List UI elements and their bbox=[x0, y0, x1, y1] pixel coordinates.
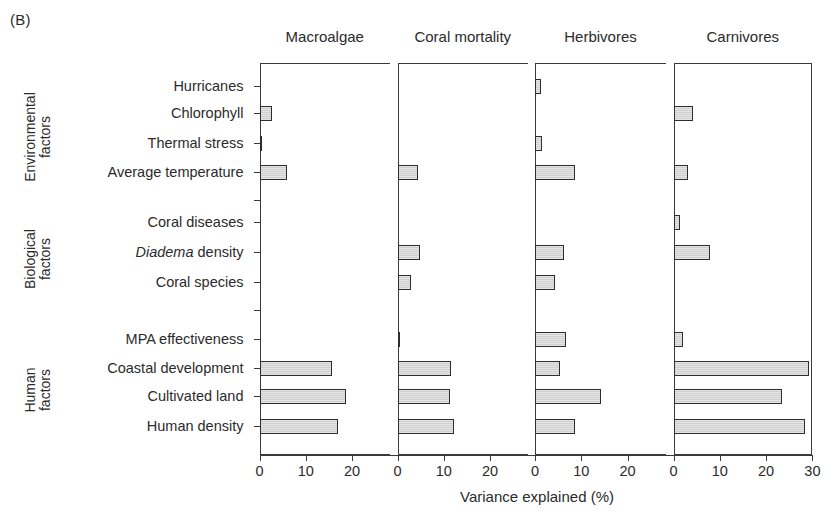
bar bbox=[674, 389, 782, 404]
x-axis-tick-label: 0 bbox=[255, 463, 263, 479]
row-label-coral-species: Coral species bbox=[2, 274, 252, 290]
bar bbox=[260, 419, 339, 434]
row-label-cultivated-land: Cultivated land bbox=[2, 388, 252, 404]
bar bbox=[535, 332, 566, 347]
row-label-italic-part: Diadema bbox=[135, 244, 193, 260]
bar bbox=[398, 275, 411, 290]
row-label-text-part: Average temperature bbox=[108, 164, 244, 180]
x-axis-tick bbox=[398, 455, 399, 461]
y-axis-tick bbox=[254, 252, 260, 253]
x-axis-tick-label: 10 bbox=[436, 463, 452, 479]
row-label-text-part: MPA effectiveness bbox=[126, 331, 244, 347]
row-label-hurricanes: Hurricanes bbox=[2, 78, 252, 94]
row-label-text-part: Human density bbox=[147, 418, 244, 434]
row-label-text-part: Cultivated land bbox=[148, 388, 244, 404]
row-label-text-part: Coral diseases bbox=[148, 214, 244, 230]
x-axis-tick bbox=[581, 455, 582, 461]
x-axis-tick bbox=[674, 455, 675, 461]
x-axis-tick bbox=[490, 455, 491, 461]
x-axis-tick-label: 20 bbox=[482, 463, 498, 479]
x-axis-tick bbox=[720, 455, 721, 461]
panel-title-macroalgae: Macroalgae bbox=[286, 28, 364, 45]
x-axis-tick bbox=[766, 455, 767, 461]
x-axis-tick-label: 10 bbox=[298, 463, 314, 479]
row-label-human-density: Human density bbox=[2, 418, 252, 434]
bar bbox=[398, 332, 401, 347]
x-axis-tick-label: 20 bbox=[758, 463, 774, 479]
y-axis-tick bbox=[254, 310, 260, 311]
x-axis-tick bbox=[812, 455, 813, 461]
row-label-text-part: Chlorophyll bbox=[171, 105, 244, 121]
bar bbox=[260, 361, 333, 376]
panel-title-coral-mortality: Coral mortality bbox=[414, 28, 511, 45]
bar bbox=[398, 389, 450, 404]
x-axis-tick-label: 10 bbox=[573, 463, 589, 479]
bar bbox=[535, 136, 542, 151]
bar bbox=[674, 106, 694, 121]
x-axis-tick bbox=[628, 455, 629, 461]
row-label-coral-diseases: Coral diseases bbox=[2, 214, 252, 230]
bar bbox=[260, 389, 346, 404]
x-axis-tick bbox=[260, 455, 261, 461]
figure-panel-b: (B) EnvironmentalfactorsBiologicalfactor… bbox=[0, 0, 827, 516]
x-axis-tick bbox=[535, 455, 536, 461]
x-axis-title: Variance explained (%) bbox=[460, 488, 614, 505]
x-axis-tick-label: 20 bbox=[344, 463, 360, 479]
row-label-text-part: Hurricanes bbox=[173, 78, 243, 94]
bar bbox=[535, 275, 555, 290]
panel-title-herbivores: Herbivores bbox=[564, 28, 637, 45]
bar bbox=[398, 419, 455, 434]
bar bbox=[260, 106, 273, 121]
bar bbox=[674, 245, 710, 260]
bar bbox=[398, 361, 452, 376]
x-axis-tick bbox=[444, 455, 445, 461]
row-label-text-part: Coral species bbox=[156, 274, 244, 290]
y-axis-tick bbox=[254, 222, 260, 223]
row-label-coastal-development: Coastal development bbox=[2, 360, 252, 376]
bar bbox=[535, 79, 541, 94]
row-label-mpa-effectiveness: MPA effectiveness bbox=[2, 331, 252, 347]
row-label-diadema-density: Diadema density bbox=[2, 244, 252, 260]
bar bbox=[260, 165, 288, 180]
panel-title-carnivores: Carnivores bbox=[706, 28, 779, 45]
row-label-average-temperature: Average temperature bbox=[2, 164, 252, 180]
y-axis-tick bbox=[254, 200, 260, 201]
bar bbox=[674, 361, 810, 376]
y-axis-tick bbox=[254, 86, 260, 87]
row-label-text-part: density bbox=[194, 244, 244, 260]
y-axis-tick bbox=[254, 282, 260, 283]
bar bbox=[674, 332, 683, 347]
bar bbox=[535, 245, 564, 260]
bar bbox=[674, 165, 689, 180]
bar bbox=[674, 215, 681, 230]
bar bbox=[674, 419, 805, 434]
panel-letter-label: (B) bbox=[10, 11, 31, 28]
x-axis-tick bbox=[306, 455, 307, 461]
bar bbox=[398, 245, 420, 260]
row-label-thermal-stress: Thermal stress bbox=[2, 135, 252, 151]
x-axis-tick-label: 0 bbox=[669, 463, 677, 479]
bar bbox=[535, 419, 575, 434]
x-axis-tick bbox=[352, 455, 353, 461]
bar bbox=[535, 361, 560, 376]
x-axis-tick-label: 10 bbox=[712, 463, 728, 479]
bar bbox=[398, 165, 419, 180]
x-axis-tick-label: 20 bbox=[620, 463, 636, 479]
row-label-chlorophyll: Chlorophyll bbox=[2, 105, 252, 121]
y-axis-tick bbox=[254, 339, 260, 340]
row-label-text-part: Coastal development bbox=[107, 360, 243, 376]
row-label-text-part: Thermal stress bbox=[148, 135, 244, 151]
x-axis-tick-label: 0 bbox=[393, 463, 401, 479]
bar bbox=[260, 136, 263, 151]
bar bbox=[535, 389, 601, 404]
x-axis-tick-label: 30 bbox=[804, 463, 820, 479]
bar bbox=[535, 165, 575, 180]
x-axis-tick-label: 0 bbox=[531, 463, 539, 479]
